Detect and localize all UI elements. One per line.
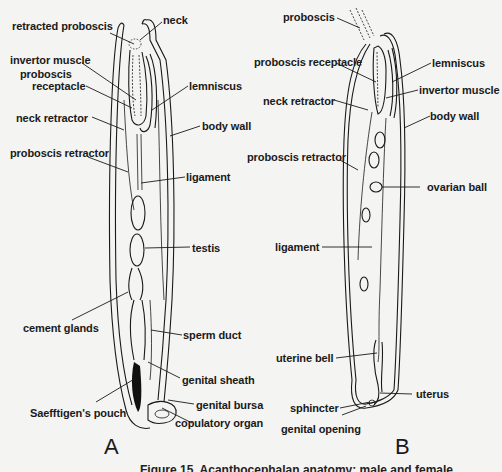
figure-caption: Figure 15. Acanthocephalan anatomy: male…	[140, 463, 453, 472]
female-worm-drawing	[343, 8, 405, 408]
label-proboscis-receptacle-a-line2: receptacle	[32, 80, 85, 92]
label-proboscis-retractor-a: proboscis retractor	[10, 147, 109, 159]
label-testis: testis	[192, 242, 220, 254]
label-neck-retractor-a: neck retractor	[16, 112, 88, 124]
label-genital-opening: genital opening	[281, 423, 361, 435]
label-proboscis-receptacle-a-line1: proboscis	[20, 68, 72, 80]
acanthocephalan-anatomy-figure: retracted proboscis neck invertor muscle…	[0, 0, 502, 472]
label-ligament-a: ligament	[186, 171, 230, 183]
label-uterus: uterus	[416, 388, 449, 400]
label-invertor-muscle-a: invertor muscle	[10, 54, 90, 66]
label-retracted-proboscis: retracted proboscis	[12, 20, 113, 32]
label-genital-sheath: genital sheath	[182, 374, 255, 386]
label-proboscis-b: proboscis	[283, 11, 335, 23]
label-neck: neck	[163, 14, 188, 26]
label-proboscis-receptacle-b: proboscis receptacle	[254, 56, 362, 68]
panel-letter-b: B	[395, 436, 410, 458]
label-body-wall-a: body wall	[202, 120, 251, 132]
label-sperm-duct: sperm duct	[183, 329, 241, 341]
leader-lines-b	[322, 18, 431, 415]
label-invertor-muscle-b: invertor muscle	[419, 84, 499, 96]
label-genital-bursa: genital bursa	[196, 399, 263, 411]
label-proboscis-retractor-b: proboscis retractor	[247, 151, 346, 163]
leader-lines-a	[72, 22, 200, 423]
label-body-wall-b: body wall	[430, 110, 479, 122]
panel-letter-a: A	[104, 436, 119, 458]
label-ligament-b: ligament	[275, 241, 319, 253]
label-neck-retractor-b: neck retractor	[263, 95, 335, 107]
label-lemniscus-b: lemniscus	[432, 57, 485, 69]
label-saefftigens-pouch: Saefftigen's pouch	[30, 407, 126, 419]
label-lemniscus-a: lemniscus	[189, 80, 242, 92]
label-cement-glands: cement glands	[23, 322, 99, 334]
label-ovarian-ball: ovarian ball	[427, 181, 487, 193]
label-sphincter: sphincter	[290, 402, 339, 414]
label-uterine-bell: uterine bell	[276, 352, 333, 364]
label-copulatory-organ: copulatory organ	[175, 417, 263, 429]
male-worm-drawing	[109, 20, 176, 429]
